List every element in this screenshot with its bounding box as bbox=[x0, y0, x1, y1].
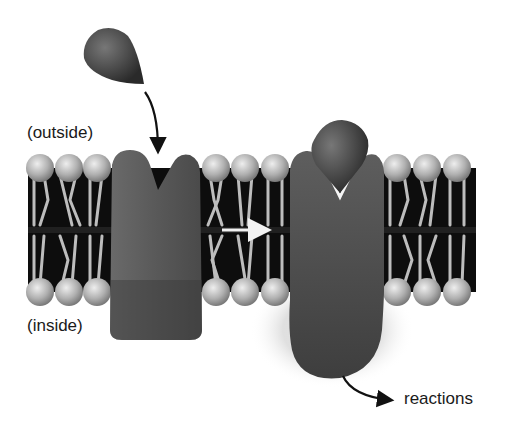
lipid-heads-inner bbox=[26, 278, 471, 306]
label-outside: (outside) bbox=[27, 123, 93, 143]
arrow-binding bbox=[145, 92, 158, 150]
lipid-heads-outer bbox=[26, 154, 471, 182]
receptor-unbound-shade bbox=[110, 280, 202, 340]
membrane-receptor-diagram bbox=[0, 0, 517, 431]
label-inside: (inside) bbox=[27, 316, 83, 336]
ligand-free bbox=[84, 28, 144, 84]
label-reactions: reactions bbox=[404, 389, 473, 409]
